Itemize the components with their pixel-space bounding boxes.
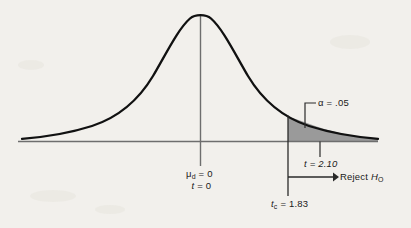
- t-distribution-figure: μd = 0 t = 0 α = .05 t = 2.10 Reject HO …: [0, 0, 411, 228]
- t-value: = 0: [194, 180, 211, 191]
- mu-d-row: μd = 0: [186, 168, 213, 180]
- h-symbol: H: [371, 171, 378, 182]
- reject-arrow-head: [333, 173, 339, 182]
- alpha-annotation-label: α = .05: [318, 97, 349, 108]
- tc-value: = 1.83: [278, 198, 309, 209]
- t-zero-row: t = 0: [186, 180, 213, 191]
- mu-symbol: μ: [186, 168, 192, 179]
- tc-subscript: c: [274, 203, 278, 210]
- observed-t-annotation-label: t = 2.10: [304, 158, 338, 169]
- mean-annotation-label: μd = 0 t = 0: [186, 168, 213, 191]
- distribution-plot: [0, 0, 411, 228]
- critical-value-label: tc = 1.83: [271, 198, 308, 210]
- h-subscript: O: [378, 176, 384, 183]
- mu-subscript: d: [192, 173, 196, 180]
- mu-value: = 0: [196, 168, 213, 179]
- reject-word: Reject: [340, 171, 371, 182]
- observed-t-symbol: t = 2.10: [304, 158, 338, 169]
- reject-null-label: Reject HO: [340, 171, 384, 183]
